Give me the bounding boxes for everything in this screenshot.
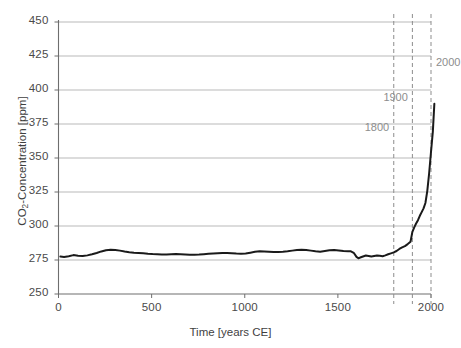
x-tick-label-2000: 2000 [406, 301, 456, 313]
plot-area [0, 0, 461, 348]
x-axis-title: Time [years CE] [0, 326, 461, 338]
x-tick-label-1000: 1000 [220, 301, 270, 313]
annotation-label-1800: 1800 [365, 121, 389, 133]
gridlines [59, 22, 432, 260]
y-tick-label-250: 250 [7, 286, 49, 298]
x-tick-label-500: 500 [127, 301, 177, 313]
x-tick-label-1500: 1500 [313, 301, 363, 313]
y-tick-label-450: 450 [7, 14, 49, 26]
y-axis-title: CO2-Concentration [ppm] [16, 76, 28, 246]
y-tick-label-425: 425 [7, 48, 49, 60]
y-tick-label-275: 275 [7, 252, 49, 264]
annotation-label-2000: 2000 [436, 56, 460, 68]
co2-concentration-chart: 250275300325350375400425450 050010001500… [0, 0, 461, 348]
x-tick-label-0: 0 [34, 301, 84, 313]
annotation-label-1900: 1900 [383, 91, 407, 103]
